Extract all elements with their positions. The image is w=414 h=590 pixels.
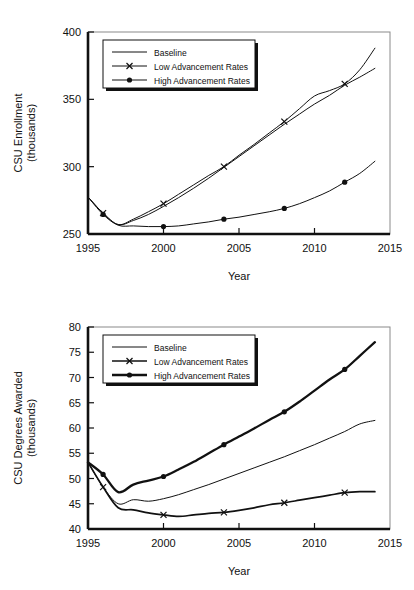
- x-tick-label: 2005: [227, 537, 251, 549]
- x-tick-label: 2000: [151, 537, 175, 549]
- y-tick-label: 70: [69, 372, 81, 384]
- y-tick-label: 350: [63, 93, 81, 105]
- series-marker-circle: [101, 472, 106, 477]
- series-marker-circle: [342, 180, 347, 185]
- series-line-0: [88, 68, 375, 224]
- series-marker-circle: [342, 367, 347, 372]
- x-axis-title: Year: [228, 270, 251, 282]
- x-tick-label: 2015: [378, 537, 402, 549]
- series-marker-circle: [221, 442, 226, 447]
- legend-label-0: Baseline: [154, 343, 187, 353]
- y-tick-label: 300: [63, 161, 81, 173]
- chart-csu-enrollment: 25030035040019952000200520102015YearCSU …: [0, 0, 414, 295]
- y-tick-label: 65: [69, 397, 81, 409]
- legend-marker-circle: [127, 372, 132, 377]
- y-tick-label: 40: [69, 523, 81, 535]
- x-tick-label: 2000: [151, 242, 175, 254]
- series-line-1: [88, 462, 375, 516]
- series-marker-circle: [101, 212, 106, 217]
- y-axis-subtitle: (thousands): [25, 104, 37, 162]
- series-line-2: [88, 161, 375, 226]
- legend-label-0: Baseline: [154, 48, 187, 58]
- x-tick-label: 2015: [378, 242, 402, 254]
- x-axis-title: Year: [228, 565, 251, 577]
- chart-canvas-enrollment: 25030035040019952000200520102015YearCSU …: [0, 0, 414, 295]
- legend-label-1: Low Advancement Rates: [154, 62, 248, 72]
- x-tick-label: 2010: [302, 537, 326, 549]
- y-tick-label: 250: [63, 228, 81, 240]
- y-tick-label: 45: [69, 498, 81, 510]
- y-tick-label: 60: [69, 422, 81, 434]
- series-marker-circle: [161, 474, 166, 479]
- x-tick-label: 1995: [76, 537, 100, 549]
- legend-marker-circle: [127, 77, 132, 82]
- y-tick-label: 50: [69, 473, 81, 485]
- legend-label-2: High Advancement Rates: [154, 76, 250, 86]
- series-marker-circle: [221, 217, 226, 222]
- y-axis-subtitle: (thousands): [25, 399, 37, 457]
- x-tick-label: 2010: [302, 242, 326, 254]
- y-tick-label: 75: [69, 346, 81, 358]
- x-tick-label: 2005: [227, 242, 251, 254]
- series-line-0: [88, 420, 375, 504]
- chart-canvas-degrees: 40455055606570758019952000200520102015Ye…: [0, 295, 414, 590]
- series-marker-circle: [161, 224, 166, 229]
- y-axis-title-line1: CSU Enrollment: [12, 94, 24, 173]
- legend-label-1: Low Advancement Rates: [154, 357, 248, 367]
- y-tick-label: 55: [69, 447, 81, 459]
- y-axis-title-line2: (thousands): [25, 399, 37, 457]
- legend-label-2: High Advancement Rates: [154, 371, 250, 381]
- series-marker-circle: [282, 206, 287, 211]
- chart-csu-degrees-awarded: 40455055606570758019952000200520102015Ye…: [0, 295, 414, 590]
- x-tick-label: 1995: [76, 242, 100, 254]
- series-marker-x: [221, 164, 227, 170]
- y-axis-title-line1: CSU Degrees Awarded: [12, 371, 24, 485]
- series-marker-circle: [282, 409, 287, 414]
- y-axis-title: CSU Degrees Awarded: [12, 371, 24, 485]
- series-marker-x: [100, 484, 106, 490]
- y-tick-label: 400: [63, 26, 81, 38]
- series-marker-x: [161, 201, 167, 207]
- y-tick-label: 80: [69, 321, 81, 333]
- y-axis-title: CSU Enrollment: [12, 94, 24, 173]
- y-axis-title-line2: (thousands): [25, 104, 37, 162]
